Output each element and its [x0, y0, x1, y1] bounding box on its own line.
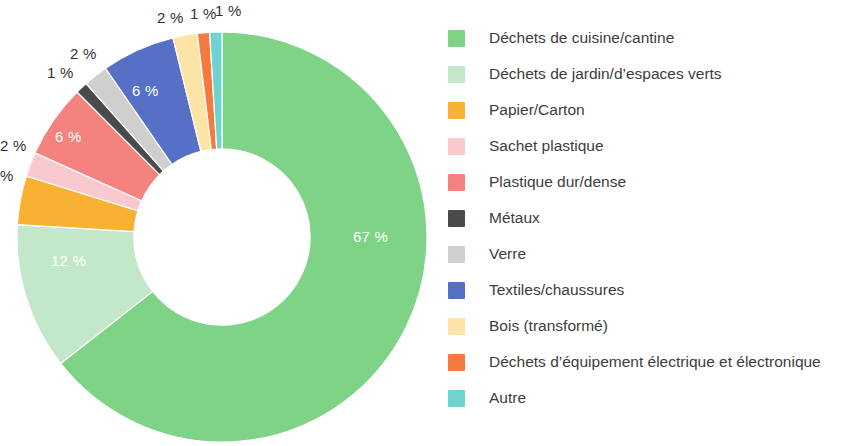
legend-swatch-icon — [448, 210, 465, 227]
slice-value-label: 1 % — [215, 3, 241, 18]
legend-item-label: Sachet plastique — [489, 138, 604, 154]
legend-item[interactable]: Autre — [448, 380, 848, 416]
legend-item-label: Plastique dur/dense — [489, 174, 626, 190]
legend-swatch-icon — [448, 246, 465, 263]
slice-value-label: 2 % — [157, 10, 183, 25]
legend-item-label: Déchets d’équipement électrique et élect… — [489, 354, 821, 370]
slice-value-label: 1 % — [47, 65, 73, 80]
legend-swatch-icon — [448, 318, 465, 335]
legend-item-label: Déchets de cuisine/cantine — [489, 30, 674, 46]
legend-item-label: Bois (transformé) — [489, 318, 608, 334]
legend-item-label: Autre — [489, 390, 526, 406]
legend-item[interactable]: Métaux — [448, 200, 848, 236]
legend-item[interactable]: Sachet plastique — [448, 128, 848, 164]
legend-swatch-icon — [448, 102, 465, 119]
legend-swatch-icon — [448, 354, 465, 371]
legend-item-label: Verre — [489, 246, 526, 262]
legend-item[interactable]: Déchets de cuisine/cantine — [448, 20, 848, 56]
slice-value-label: 6 % — [132, 83, 158, 98]
slice-value-label: 12 % — [51, 253, 86, 268]
legend-item-label: Textiles/chaussures — [489, 282, 624, 298]
legend-item[interactable]: Déchets de jardin/d’espaces verts — [448, 56, 848, 92]
slice-value-label: % — [0, 168, 14, 183]
legend-swatch-icon — [448, 30, 465, 47]
slice-value-label: 67 % — [353, 229, 388, 244]
legend-item-label: Métaux — [489, 210, 540, 226]
slice-value-label: 1 % — [190, 6, 216, 21]
donut-chart-figure: 67 %12 %%2 %6 %1 %2 %6 %2 %1 %1 % Déchet… — [0, 0, 851, 446]
legend-item[interactable]: Textiles/chaussures — [448, 272, 848, 308]
legend-swatch-icon — [448, 282, 465, 299]
legend: Déchets de cuisine/cantineDéchets de jar… — [448, 20, 848, 416]
legend-swatch-icon — [448, 390, 465, 407]
legend-item[interactable]: Déchets d’équipement électrique et élect… — [448, 344, 848, 380]
legend-item[interactable]: Papier/Carton — [448, 92, 848, 128]
legend-swatch-icon — [448, 138, 465, 155]
slice-value-label: 2 % — [70, 46, 96, 61]
legend-item[interactable]: Verre — [448, 236, 848, 272]
legend-item[interactable]: Plastique dur/dense — [448, 164, 848, 200]
legend-swatch-icon — [448, 174, 465, 191]
legend-item-label: Déchets de jardin/d’espaces verts — [489, 66, 722, 82]
legend-swatch-icon — [448, 66, 465, 83]
legend-item-label: Papier/Carton — [489, 102, 585, 118]
slice-value-label: 2 % — [0, 138, 26, 153]
slice-value-label: 6 % — [55, 129, 81, 144]
legend-item[interactable]: Bois (transformé) — [448, 308, 848, 344]
donut-plot-area: 67 %12 %%2 %6 %1 %2 %6 %2 %1 %1 % — [0, 0, 440, 446]
